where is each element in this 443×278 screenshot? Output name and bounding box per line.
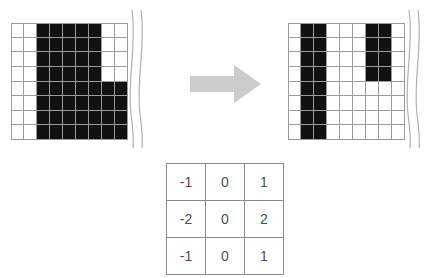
output-pixel-5-7 [379,96,392,111]
input-pixel-7-6 [89,125,102,140]
kernel-cell-2-0: -1 [167,238,206,275]
output-pixel-0-4 [340,23,353,38]
output-pixel-1-1 [301,38,314,53]
output-pixel-6-5 [353,111,366,126]
output-pixel-6-8 [392,111,405,126]
output-pixel-2-5 [353,52,366,67]
input-pixel-2-8 [115,52,128,67]
output-pixel-5-1 [301,96,314,111]
kernel-cell-1-1: 0 [206,201,245,238]
output-pixel-7-4 [340,125,353,140]
kernel-cell-0-2: 1 [245,164,284,201]
output-pixel-4-7 [379,82,392,97]
output-pixel-1-5 [353,38,366,53]
output-pixel-3-7 [379,67,392,82]
input-pixel-7-7 [102,125,115,140]
output-pixel-7-0 [288,125,301,140]
table-row: -2 0 2 [167,201,284,238]
input-pixel-3-8 [115,67,128,82]
input-pixel-5-6 [89,96,102,111]
input-pixel-5-1 [24,96,37,111]
input-pixel-5-2 [37,96,50,111]
output-pixel-0-2 [314,23,327,38]
input-pixel-6-2 [37,111,50,126]
input-pixel-0-6 [89,23,102,38]
input-pixel-1-4 [63,38,76,53]
kernel-cell-2-1: 0 [206,238,245,275]
input-pixel-2-1 [24,52,37,67]
input-pixel-2-5 [76,52,89,67]
input-pixel-6-0 [11,111,24,126]
output-pixel-5-8 [392,96,405,111]
output-pixel-2-0 [288,52,301,67]
output-pixel-0-1 [301,23,314,38]
input-pixel-7-2 [37,125,50,140]
input-pixel-3-7 [102,67,115,82]
input-pixel-3-2 [37,67,50,82]
input-pixel-3-0 [11,67,24,82]
input-pixel-4-2 [37,82,50,97]
input-pixel-4-4 [63,82,76,97]
input-pixel-2-7 [102,52,115,67]
output-pixel-7-7 [379,125,392,140]
input-pixel-4-8 [115,82,128,97]
output-pixel-3-6 [366,67,379,82]
input-pixel-6-7 [102,111,115,126]
input-pixel-4-0 [11,82,24,97]
input-pixel-4-5 [76,82,89,97]
output-pixel-0-7 [379,23,392,38]
kernel-cell-1-2: 2 [245,201,284,238]
output-pixel-6-0 [288,111,301,126]
input-pixel-1-5 [76,38,89,53]
input-pixel-6-5 [76,111,89,126]
output-pixel-5-5 [353,96,366,111]
table-row: -1 0 1 [167,238,284,275]
output-pixel-4-0 [288,82,301,97]
input-pixel-1-8 [115,38,128,53]
output-pixel-1-6 [366,38,379,53]
input-pixel-2-4 [63,52,76,67]
kernel-cell-0-1: 0 [206,164,245,201]
output-pixel-7-8 [392,125,405,140]
output-pixel-3-5 [353,67,366,82]
output-pixel-5-3 [327,96,340,111]
input-pixel-0-4 [63,23,76,38]
input-pixel-7-8 [115,125,128,140]
output-pixel-1-4 [340,38,353,53]
input-pixel-0-0 [11,23,24,38]
output-pixel-0-0 [288,23,301,38]
input-pixel-5-0 [11,96,24,111]
output-pixel-4-2 [314,82,327,97]
output-pixel-6-3 [327,111,340,126]
input-pixel-4-6 [89,82,102,97]
input-pixel-6-4 [63,111,76,126]
output-pixel-3-3 [327,67,340,82]
input-pixel-6-1 [24,111,37,126]
sobel-figure: -1 0 1 -2 0 2 -1 0 1 [0,0,443,278]
input-pixel-5-3 [50,96,63,111]
input-pixel-5-5 [76,96,89,111]
input-pixel-1-3 [50,38,63,53]
input-pixel-0-8 [115,23,128,38]
input-pixel-5-7 [102,96,115,111]
output-pixel-1-2 [314,38,327,53]
output-pixel-4-1 [301,82,314,97]
input-pixel-1-6 [89,38,102,53]
input-pixel-3-4 [63,67,76,82]
input-pixel-3-6 [89,67,102,82]
input-pixel-4-3 [50,82,63,97]
input-pixel-7-1 [24,125,37,140]
output-pixel-4-6 [366,82,379,97]
input-pixel-1-2 [37,38,50,53]
output-pixel-2-7 [379,52,392,67]
input-pixel-7-0 [11,125,24,140]
output-pixel-6-7 [379,111,392,126]
output-pixel-5-4 [340,96,353,111]
input-pixel-4-7 [102,82,115,97]
kernel-cell-1-0: -2 [167,201,206,238]
output-pixel-4-8 [392,82,405,97]
input-pixel-2-3 [50,52,63,67]
input-pixel-1-1 [24,38,37,53]
input-pixel-6-6 [89,111,102,126]
output-pixel-0-3 [327,23,340,38]
